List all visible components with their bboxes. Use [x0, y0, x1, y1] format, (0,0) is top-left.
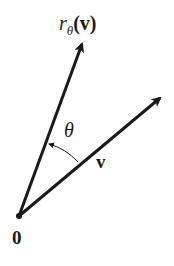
- rotated-vector-label: rθ(v): [59, 12, 97, 38]
- origin-label: 0: [12, 227, 22, 248]
- rotation-diagram: rθ(v) θ v 0: [0, 0, 174, 266]
- origin-point: [16, 213, 22, 219]
- vector-v-label: v: [96, 151, 106, 172]
- angle-label: θ: [64, 119, 74, 141]
- angle-arc: [49, 144, 78, 162]
